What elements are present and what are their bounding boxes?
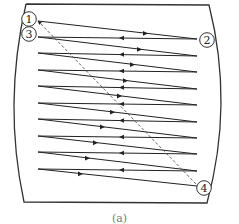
- arrow-right-icon: [93, 140, 98, 145]
- forward-scan-line: [38, 152, 197, 171]
- point-marker-1: 1: [22, 12, 37, 27]
- arrow-left-icon: [119, 135, 124, 140]
- arrow-right-icon: [78, 171, 83, 176]
- forward-scan-line: [38, 169, 197, 186]
- point-label: 1: [26, 13, 33, 26]
- arrow-left-icon: [119, 102, 124, 107]
- arrow-right-icon: [137, 47, 142, 52]
- point-marker-3: 3: [22, 27, 37, 42]
- forward-scan-line: [38, 136, 197, 154]
- arrow-left-icon: [119, 118, 124, 123]
- arrow-left-icon: [119, 85, 124, 90]
- arrow-left-icon: [119, 36, 124, 41]
- arrow-right-icon: [100, 125, 105, 130]
- point-marker-4: 4: [197, 181, 212, 196]
- arrow-right-icon: [143, 31, 148, 36]
- return-scan-line: [38, 70, 197, 72]
- return-scan-line: [38, 152, 197, 154]
- arrow-right-icon: [123, 78, 128, 83]
- arrow-right-icon: [110, 110, 115, 115]
- arrow-left-icon: [119, 69, 124, 74]
- return-scan-line: [38, 136, 197, 138]
- point-marker-2: 2: [200, 33, 215, 48]
- arrow-left-icon: [119, 52, 124, 57]
- figure-caption: (a): [0, 213, 239, 224]
- return-scan-line: [38, 169, 197, 171]
- arrow-right-icon: [117, 94, 122, 99]
- arrow-right-icon: [130, 62, 135, 67]
- point-label: 3: [26, 28, 33, 41]
- scan-path-diagram: 1234: [0, 0, 239, 224]
- forward-scan-line: [38, 21, 197, 39]
- arrow-left-icon: [119, 151, 124, 156]
- arrow-left-icon: [119, 168, 124, 173]
- point-label: 4: [201, 182, 208, 195]
- arrow-right-icon: [85, 156, 90, 161]
- point-label: 2: [204, 34, 211, 47]
- return-scan-line: [38, 37, 197, 39]
